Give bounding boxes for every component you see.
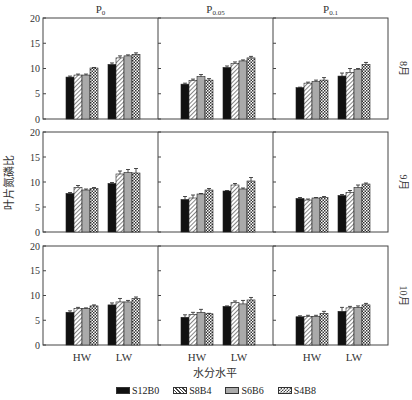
bar-s8b4 — [304, 83, 312, 119]
bar-s6b6 — [354, 188, 362, 233]
y-tick-label: 5 — [35, 88, 40, 99]
bar-s6b6 — [239, 61, 247, 119]
bar-s4b8 — [90, 306, 98, 345]
bar-s12b0 — [66, 312, 74, 345]
legend-item-s8b4: S8B4 — [173, 385, 211, 396]
bar-s12b0 — [223, 67, 231, 119]
bar-s12b0 — [66, 194, 74, 233]
bar-s4b8 — [132, 173, 140, 232]
bar-s4b8 — [362, 184, 370, 232]
legend-label: S4B8 — [294, 385, 316, 396]
bar-s4b8 — [90, 189, 98, 233]
y-tick-label: 15 — [30, 38, 40, 49]
bar-s8b4 — [189, 314, 197, 345]
x-tick-label: LW — [231, 351, 248, 363]
panel — [296, 183, 370, 232]
bar-s8b4 — [231, 63, 239, 119]
y-tick-label: 10 — [30, 63, 40, 74]
x-tick-label: HW — [73, 351, 92, 363]
bar-s6b6 — [124, 56, 132, 119]
legend-swatch-solid-black — [116, 387, 130, 394]
bar-s12b0 — [296, 88, 304, 119]
bar-s6b6 — [82, 190, 90, 232]
bar-s4b8 — [205, 314, 213, 345]
legend-item-s12b0: S12B0 — [116, 385, 159, 396]
bar-s8b4 — [304, 316, 312, 345]
bar-s8b4 — [231, 185, 239, 232]
chart-canvas: 051015208月051015209月0510152010月P0P0.05P0… — [0, 0, 412, 400]
row-label-month: 8月 — [398, 61, 409, 76]
bar-s4b8 — [362, 64, 370, 119]
y-tick-label: 15 — [30, 152, 40, 163]
y-tick-label: 10 — [30, 177, 40, 188]
bar-s12b0 — [223, 306, 231, 345]
bar-s12b0 — [223, 191, 231, 232]
x-tick-label: HW — [303, 351, 322, 363]
panel — [66, 297, 140, 345]
bar-s6b6 — [82, 75, 90, 119]
bar-s12b0 — [108, 305, 116, 345]
bar-s4b8 — [205, 190, 213, 232]
bar-s8b4 — [346, 193, 354, 233]
bar-s4b8 — [320, 80, 328, 119]
row-label-month: 9月 — [398, 175, 409, 190]
column-header-p005: P0.05 — [206, 3, 225, 17]
legend-label: S6B6 — [241, 385, 263, 396]
bar-s6b6 — [197, 77, 205, 119]
bar-s6b6 — [354, 70, 362, 119]
bar-s8b4 — [346, 73, 354, 119]
bar-s6b6 — [239, 304, 247, 345]
bar-s4b8 — [247, 300, 255, 345]
bar-s12b0 — [338, 196, 346, 233]
bar-s12b0 — [338, 76, 346, 119]
bar-s4b8 — [320, 198, 328, 233]
panel — [296, 303, 370, 345]
y-tick-label: 20 — [30, 241, 40, 252]
bar-s12b0 — [181, 317, 189, 345]
legend-label: S12B0 — [132, 385, 159, 396]
panel — [181, 178, 255, 233]
legend-item-s4b8: S4B8 — [278, 385, 316, 396]
x-axis-title: 水分水平 — [193, 367, 237, 380]
bar-s6b6 — [82, 308, 90, 345]
bar-s8b4 — [189, 198, 197, 232]
legend-swatch-solid-gray — [225, 387, 239, 394]
y-tick-label: 5 — [35, 202, 40, 213]
bar-s6b6 — [124, 302, 132, 345]
y-tick-label: 10 — [30, 290, 40, 301]
bar-s4b8 — [205, 80, 213, 119]
y-tick-label: 0 — [35, 114, 40, 125]
bar-s6b6 — [239, 189, 247, 232]
legend-swatch-hatch — [173, 387, 187, 394]
y-tick-label: 5 — [35, 315, 40, 326]
y-tick-label: 15 — [30, 265, 40, 276]
bar-s6b6 — [197, 312, 205, 345]
row-label-month: 10月 — [398, 286, 409, 306]
panel — [296, 62, 370, 119]
y-axis-title: 叶片氮磷比 — [2, 155, 16, 210]
bar-s4b8 — [132, 54, 140, 119]
bar-s6b6 — [197, 194, 205, 232]
bar-s6b6 — [124, 173, 132, 233]
legend-label: S8B4 — [189, 385, 211, 396]
bar-s12b0 — [181, 84, 189, 119]
x-tick-label: LW — [346, 351, 363, 363]
bar-s12b0 — [338, 311, 346, 345]
bar-s4b8 — [320, 313, 328, 345]
y-tick-label: 0 — [35, 340, 40, 351]
bar-s6b6 — [312, 82, 320, 119]
bar-s8b4 — [74, 308, 82, 345]
x-tick-label: HW — [188, 351, 207, 363]
bar-s12b0 — [66, 77, 74, 119]
bar-s8b4 — [116, 174, 124, 232]
legend-item-s6b6: S6B6 — [225, 385, 263, 396]
panel — [66, 53, 140, 119]
legend-swatch-checker — [278, 387, 292, 394]
bar-s8b4 — [74, 188, 82, 233]
bar-s8b4 — [116, 302, 124, 345]
panel — [181, 56, 255, 119]
bar-s12b0 — [181, 200, 189, 233]
bar-s6b6 — [354, 307, 362, 345]
bar-s8b4 — [189, 81, 197, 119]
bar-s8b4 — [116, 58, 124, 119]
